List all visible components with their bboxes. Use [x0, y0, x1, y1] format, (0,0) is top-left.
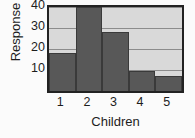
bar: [49, 53, 76, 91]
x-tick-label: 2: [73, 95, 101, 109]
plot-area: [49, 7, 182, 91]
bar: [102, 32, 129, 91]
x-tick-label: 3: [100, 95, 128, 109]
gridline-40: [49, 7, 182, 8]
bar-chart: Response 10203040 12345 Children: [0, 0, 195, 138]
bar: [155, 76, 182, 91]
gridline-30: [49, 28, 182, 29]
x-tick-label: 4: [126, 95, 154, 109]
y-tick-label: 20: [27, 42, 45, 52]
bar: [129, 71, 156, 91]
y-tick-label: 30: [27, 21, 45, 31]
plot-panel: [47, 5, 184, 93]
x-axis-title: Children: [47, 114, 184, 129]
x-tick-label: 1: [46, 95, 74, 109]
x-tick-label: 5: [153, 95, 181, 109]
bar: [76, 7, 103, 91]
y-tick-label: 40: [27, 0, 45, 10]
x-axis-tick-labels: 12345: [47, 95, 184, 111]
y-axis-title: Response: [6, 0, 26, 79]
y-tick-label: 10: [27, 63, 45, 73]
y-axis-tick-labels: 10203040: [27, 0, 45, 138]
